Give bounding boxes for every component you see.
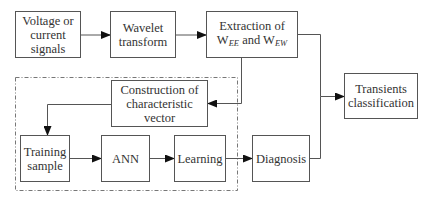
line-diagnosis-to-transients	[310, 97, 321, 159]
flow-diagram: Voltage or current signals Wavelet trans…	[0, 0, 432, 201]
and-text: and	[239, 33, 263, 47]
node-label-line: Wavelet	[123, 21, 164, 35]
node-label-line: Transients	[355, 82, 407, 96]
w-symbol: W	[217, 33, 229, 47]
node-label-line: current	[30, 28, 65, 42]
node-label-line: Learning	[177, 152, 222, 166]
arrow-extraction-to-transients	[298, 35, 344, 97]
arrow-extraction-to-construction	[208, 58, 242, 104]
node-label-line: Construction of	[120, 83, 198, 97]
node-diagnosis: Diagnosis	[252, 135, 310, 182]
node-label-line: WEE and WEW	[217, 33, 287, 50]
node-label-line: Diagnosis	[256, 152, 306, 166]
node-label-line: transform	[119, 35, 168, 49]
node-label-line: signals	[31, 42, 66, 56]
node-label-line: vector	[144, 111, 175, 125]
node-training-sample: Training sample	[20, 135, 70, 182]
node-wavelet-transform: Wavelet transform	[110, 11, 176, 58]
node-voltage-current-signals: Voltage or current signals	[15, 11, 81, 58]
node-extraction: Extraction of WEE and WEW	[206, 11, 298, 58]
subscript-ee: EE	[229, 38, 239, 48]
node-label-line: characteristic	[126, 97, 193, 111]
w-symbol: W	[263, 33, 275, 47]
node-label-line: ANN	[112, 152, 139, 166]
node-label-line: Extraction of	[219, 19, 285, 33]
node-label-line: sample	[27, 159, 62, 173]
node-ann: ANN	[101, 135, 150, 182]
node-construction-characteristic-vector: Construction of characteristic vector	[111, 80, 208, 127]
arrow-construction-to-training	[48, 105, 112, 136]
node-label-line: classification	[348, 96, 414, 110]
node-label-line: Training	[24, 145, 67, 159]
node-transients-classification: Transients classification	[344, 73, 418, 119]
subscript-ew: EW	[275, 38, 287, 48]
node-learning: Learning	[174, 135, 226, 182]
node-label-line: Voltage or	[22, 14, 74, 28]
